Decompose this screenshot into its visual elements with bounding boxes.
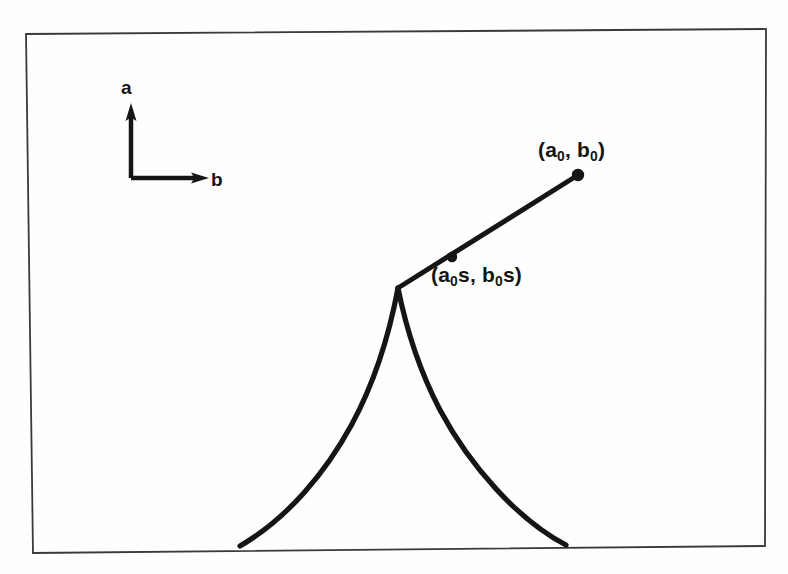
point-a0s-b0s-label-suffix: s) <box>503 263 522 286</box>
figure-canvas <box>0 0 788 574</box>
point-a0-b0-label-sub1: 0 <box>557 148 565 164</box>
point-a0-b0-label-suffix: ) <box>598 138 605 161</box>
point-a0-b0-dot <box>572 169 584 181</box>
point-a0-b0-label-prefix: (a <box>538 138 557 161</box>
point-a0s-b0s-label-prefix: (a <box>431 263 450 286</box>
point-a0s-b0s-label-sub2: 0 <box>495 273 503 289</box>
axis-a-label: a <box>121 78 132 97</box>
axis-b-arrow <box>131 173 209 184</box>
point-a0-b0-label-middle: , b <box>565 138 590 161</box>
point-a0s-b0s-label-sub1: 0 <box>450 273 458 289</box>
point-a0s-b0s-label: (a0s, b0s) <box>431 264 522 285</box>
figure-container: a b (a0, b0) (a0s, b0s) <box>0 0 788 574</box>
point-a0s-b0s-label-middle: s, b <box>458 263 495 286</box>
cusp-right-branch <box>398 288 566 545</box>
point-a0-b0-label-sub2: 0 <box>590 148 598 164</box>
cusp-left-branch <box>240 288 398 546</box>
point-a0-b0-label: (a0, b0) <box>538 139 605 160</box>
axis-b-label: b <box>211 170 223 189</box>
axis-a-arrow <box>126 103 137 178</box>
point-a0s-b0s-dot <box>447 252 457 262</box>
